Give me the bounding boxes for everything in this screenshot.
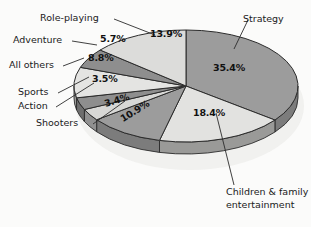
category-label-role-playing: Role-playing <box>40 12 99 23</box>
category-label-action: Action <box>18 100 48 111</box>
pie-chart: 35.4% 18.4% 10.9% 3.4% 3.5% 8.8% 5.7% 13… <box>0 0 317 227</box>
category-label-strategy: Strategy <box>243 13 284 24</box>
percent-label-all-others: 8.8% <box>88 52 114 63</box>
category-label-children-family-line2: entertainment <box>226 199 294 210</box>
leader-line-all-others <box>63 58 84 66</box>
percent-label-sports: 3.5% <box>92 73 118 84</box>
category-label-shooters: Shooters <box>36 117 78 128</box>
leader-line-adventure <box>72 41 97 45</box>
category-label-all-others: All others <box>9 59 54 70</box>
percent-label-role-playing: 13.9% <box>150 28 182 39</box>
pie-top-face <box>74 30 298 142</box>
percent-label-adventure: 5.7% <box>100 33 126 44</box>
category-label-adventure: Adventure <box>13 34 62 45</box>
percent-label-children-family: 18.4% <box>193 107 225 118</box>
category-label-children-family-line1: Children & family <box>226 186 308 197</box>
percent-label-strategy: 35.4% <box>213 62 245 73</box>
category-label-sports: Sports <box>18 86 48 97</box>
page-edge-fade <box>311 0 317 227</box>
